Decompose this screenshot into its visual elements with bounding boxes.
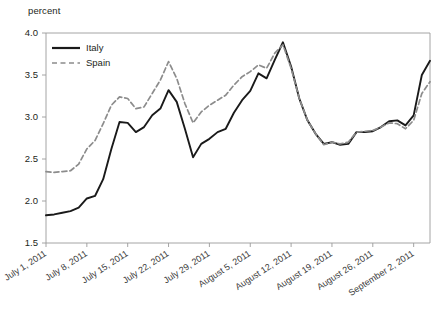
- x-axis-tick-label: July 1, 2011: [2, 248, 48, 282]
- y-axis-tick-label: 3.5: [25, 69, 38, 80]
- x-axis-tick-labels: July 1, 2011July 8, 2011July 15, 2011Jul…: [2, 248, 415, 298]
- y-axis-tick-label: 4.0: [25, 27, 38, 38]
- plot-area: 1.52.02.53.03.54.0 July 1, 2011July 8, 2…: [0, 0, 446, 334]
- y-axis-tick-labels: 1.52.02.53.03.54.0: [25, 27, 38, 248]
- legend-label-spain: Spain: [86, 57, 110, 68]
- x-axis-ticks: [46, 243, 414, 247]
- y-axis-tick-label: 2.5: [25, 153, 38, 164]
- y-axis-ticks: [42, 33, 46, 243]
- y-axis-tick-label: 1.5: [25, 237, 38, 248]
- chart-figure: percent 1.52.02.53.03.54.0 July 1, 2011J…: [0, 0, 446, 334]
- chart-legend: ItalySpain: [52, 42, 110, 68]
- y-axis-tick-label: 3.0: [25, 111, 38, 122]
- y-axis-tick-label: 2.0: [25, 195, 38, 206]
- legend-label-italy: Italy: [86, 42, 104, 53]
